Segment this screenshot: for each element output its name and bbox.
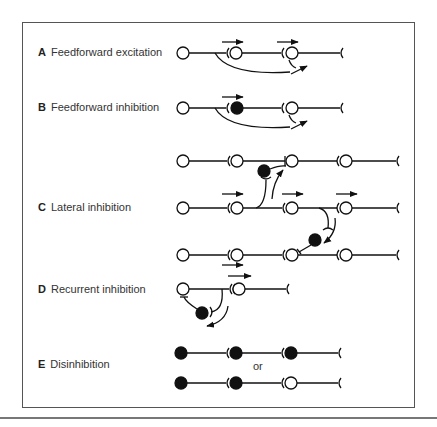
circuit-diagrams	[0, 0, 437, 427]
panel-d-circuit	[177, 276, 289, 326]
panel-a-circuit	[177, 42, 343, 74]
panel-b-circuit	[177, 97, 343, 129]
panel-c-circuit	[177, 155, 399, 265]
panel-e-circuit	[175, 347, 341, 389]
